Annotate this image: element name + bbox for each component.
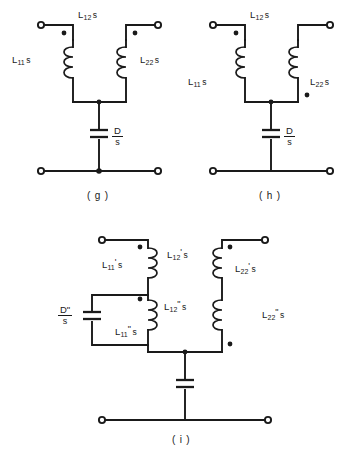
h-junction-common-bar — [269, 100, 274, 105]
i-label-mutual-upper: L12's — [167, 248, 188, 261]
h-left-top-lead — [216, 25, 245, 40]
h-caption: ( h ) — [259, 190, 281, 201]
circuit-schematic-canvas — [0, 0, 355, 452]
i-label-right-lower-inductor: L22"s — [262, 308, 284, 321]
i-caption: ( i ) — [172, 434, 190, 445]
i-polarity-dot-left-lower-coil — [138, 297, 143, 302]
i-right-lower-coil — [213, 300, 222, 330]
i-terminal-top-right — [262, 237, 268, 243]
i-label-left-upper-inductor: L11's — [102, 258, 122, 271]
g-left-top-lead — [44, 25, 73, 40]
i-label-left-lower-inductor: L11"s — [115, 325, 137, 338]
h-right-coil — [289, 47, 298, 78]
i-left-lower-coil — [148, 300, 157, 330]
g-terminal-top-left — [38, 22, 44, 28]
h-label-capacitor: Ds — [284, 126, 295, 147]
g-caption: ( g ) — [87, 190, 109, 201]
g-polarity-dot-left-coil — [62, 31, 67, 36]
h-terminal-top-right — [327, 22, 333, 28]
i-polarity-dot-right-upper-coil — [228, 245, 233, 250]
g-label-capacitor: Ds — [112, 126, 123, 147]
g-right-coil — [117, 47, 126, 78]
i-left-upper-coil — [148, 248, 157, 278]
i-terminal-bottom-right — [265, 417, 271, 423]
g-label-mutual-inductor: L12s — [78, 10, 97, 21]
h-label-right-inductor: L22s — [310, 77, 329, 88]
h-terminal-bottom-right — [327, 168, 333, 174]
i-label-mutual-lower: L12"s — [164, 300, 186, 313]
g-label-right-inductor: L22s — [140, 55, 159, 66]
h-left-coil — [236, 47, 245, 78]
h-label-mutual-inductor: L12s — [250, 10, 269, 21]
g-terminal-bottom-right — [155, 168, 161, 174]
g-label-left-inductor: L11s — [12, 55, 31, 66]
circuit-h — [210, 22, 333, 174]
h-label-left-inductor: L11s — [188, 77, 207, 88]
g-terminal-top-right — [155, 22, 161, 28]
g-polarity-dot-right-coil — [133, 31, 138, 36]
i-terminal-bottom-left — [99, 417, 105, 423]
g-terminal-bottom-left — [38, 168, 44, 174]
g-junction-bottom-rail — [96, 168, 102, 174]
h-polarity-dot-right-coil — [305, 93, 310, 98]
i-label-right-upper-inductor: L22's — [235, 262, 256, 275]
i-junction-common-bar — [183, 350, 188, 355]
g-right-top-lead — [126, 25, 155, 40]
i-polarity-dot-right-lower-coil — [228, 342, 233, 347]
h-polarity-dot-left-coil — [234, 31, 239, 36]
g-left-coil — [64, 47, 73, 78]
figure-root: L11s L12s L22s Ds ( g ) L11s L12s L22s D… — [0, 0, 355, 452]
i-label-series-capacitor: D"s — [58, 305, 72, 326]
h-terminal-top-left — [210, 22, 216, 28]
i-right-upper-coil — [213, 248, 222, 278]
g-junction-common-bar — [97, 100, 102, 105]
h-terminal-bottom-left — [210, 168, 216, 174]
i-terminal-top-left — [99, 237, 105, 243]
h-right-top-lead — [298, 25, 327, 40]
circuit-g — [38, 22, 161, 174]
i-polarity-dot-left-upper-coil — [138, 245, 143, 250]
